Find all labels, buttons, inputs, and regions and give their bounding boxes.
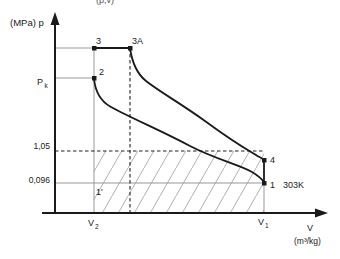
pv-diagram: (p,v) (MPa) p V (m³/kg) P k <box>0 0 340 259</box>
pressure-label-pk-subscript: k <box>45 82 49 89</box>
pressure-label-pk: P <box>37 77 43 87</box>
pressure-label-105: 1,05 <box>33 141 50 151</box>
pressure-label-0096: 0,096 <box>29 175 51 185</box>
x-axis-title: V <box>307 223 313 233</box>
point-marker-3 <box>92 46 97 51</box>
point-label-1prime: 1' <box>96 187 103 197</box>
volume-label-v1-subscript: 1 <box>265 222 269 229</box>
point-marker-1 <box>262 181 267 186</box>
pv-diagram-canvas: (p,v) (MPa) p V (m³/kg) P k <box>0 0 340 259</box>
volume-label-v1: V <box>258 217 264 227</box>
point-marker-3a <box>128 46 133 51</box>
point-label-3a: 3A <box>132 36 143 46</box>
expansion-curve-3a-4 <box>130 48 264 160</box>
point-marker-4 <box>262 158 267 163</box>
y-axis-arrow-icon <box>51 12 60 25</box>
point-label-2: 2 <box>99 67 104 77</box>
point-marker-2 <box>92 76 97 81</box>
y-axis-title: (MPa) p <box>10 17 44 28</box>
volume-label-v2: V <box>88 218 94 228</box>
hatched-work-area <box>94 151 264 213</box>
cropped-caption-fragment: (p,v) <box>96 0 114 5</box>
point-label-1: 1 <box>270 180 275 190</box>
volume-label-v2-subscript: 2 <box>95 223 99 230</box>
x-axis-arrow-icon <box>315 209 328 218</box>
point-label-4: 4 <box>270 155 275 165</box>
point-label-3: 3 <box>96 36 101 46</box>
x-axis-units: (m³/kg) <box>294 236 321 246</box>
isotherm-label-303k: 303K <box>283 180 304 190</box>
